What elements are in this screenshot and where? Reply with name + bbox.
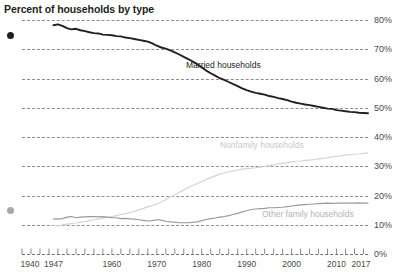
y-axis-label-30: 30% (374, 161, 392, 171)
married-series-dot (7, 32, 14, 39)
x-axis-label-1980: 1980 (192, 259, 211, 269)
x-axis-label-2000: 2000 (282, 259, 301, 269)
x-axis-label-2010: 2010 (327, 259, 346, 269)
series-label-other-family: Other family households (262, 209, 354, 219)
y-axis-label-70: 70% (374, 44, 392, 54)
series-lines-group (0, 0, 402, 279)
nonfamily-series-dot (7, 207, 14, 214)
y-axis-label-80: 80% (374, 15, 392, 25)
series-label-married: Married households (186, 60, 261, 70)
x-axis-label-2017: 2017 (352, 259, 371, 269)
x-axis-label-1947: 1947 (44, 259, 63, 269)
y-axis-label-20: 20% (374, 191, 392, 201)
y-axis-label-60: 60% (374, 74, 392, 84)
y-axis-label-50: 50% (374, 103, 392, 113)
y-axis-label-40: 40% (374, 132, 392, 142)
x-axis-label-1990: 1990 (237, 259, 256, 269)
series-label-nonfamily: Nonfamily households (220, 140, 304, 150)
y-axis-label-10: 10% (374, 220, 392, 230)
chart-container: Percent of households by type 0%10%20%30… (0, 0, 402, 279)
x-axis-label-1970: 1970 (147, 259, 166, 269)
x-axis-label-1940: 1940 (21, 259, 40, 269)
x-axis-label-1960: 1960 (102, 259, 121, 269)
x-axis-ticks (0, 248, 402, 255)
plot-area: 0%10%20%30%40%50%60%70%80% 1940194719601… (0, 0, 402, 279)
